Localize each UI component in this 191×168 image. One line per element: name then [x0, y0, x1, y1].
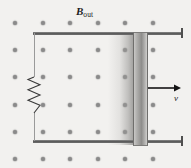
field-out-of-page-dot	[13, 103, 17, 107]
velocity-arrow-icon	[142, 82, 187, 94]
top-rail	[33, 32, 183, 35]
field-out-of-page-dot	[151, 130, 155, 134]
field-out-of-page-dot	[151, 75, 155, 79]
field-out-of-page-dot	[96, 103, 100, 107]
bottom-rail	[33, 140, 183, 143]
field-out-of-page-dot	[68, 103, 72, 107]
field-out-of-page-dot	[68, 75, 72, 79]
field-out-of-page-dot	[96, 48, 100, 52]
field-out-of-page-dot	[96, 157, 100, 161]
field-out-of-page-dot	[68, 48, 72, 52]
field-out-of-page-dot	[151, 21, 155, 25]
field-out-of-page-dot	[96, 75, 100, 79]
bottom-rail-endcap	[181, 136, 183, 146]
field-out-of-page-dot	[123, 103, 127, 107]
field-label-subscript: out	[83, 10, 93, 19]
field-out-of-page-dot	[13, 21, 17, 25]
field-out-of-page-dot	[96, 21, 100, 25]
field-out-of-page-dot	[13, 157, 17, 161]
field-out-of-page-dot	[96, 130, 100, 134]
field-out-of-page-dot	[151, 157, 155, 161]
field-out-of-page-dot	[151, 103, 155, 107]
field-out-of-page-dot	[123, 75, 127, 79]
field-out-of-page-dot	[41, 157, 45, 161]
top-rail-endcap	[181, 28, 183, 38]
field-out-of-page-dot	[41, 130, 45, 134]
field-out-of-page-dot	[13, 75, 17, 79]
field-out-of-page-dot	[123, 48, 127, 52]
slider-motion-blur	[108, 33, 134, 145]
field-out-of-page-dot	[68, 21, 72, 25]
field-out-of-page-dot	[123, 21, 127, 25]
resistor-icon	[20, 75, 48, 115]
left-wire-lower-segment	[34, 113, 35, 141]
velocity-label-v: v	[174, 94, 178, 103]
field-out-of-page-dot	[41, 21, 45, 25]
field-out-of-page-dot	[68, 157, 72, 161]
field-out-of-page-dot	[13, 48, 17, 52]
left-wire-upper-segment	[34, 33, 35, 77]
field-out-of-page-dot	[68, 130, 72, 134]
field-out-of-page-dot	[123, 130, 127, 134]
physics-diagram-canvas: Bout v	[0, 0, 191, 168]
field-out-of-page-dot	[13, 130, 17, 134]
field-label-b-out: Bout	[76, 6, 93, 19]
field-out-of-page-dot	[123, 157, 127, 161]
field-out-of-page-dot	[151, 48, 155, 52]
field-out-of-page-dot	[41, 48, 45, 52]
